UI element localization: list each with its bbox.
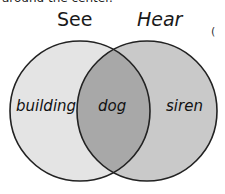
label-left-only: building bbox=[16, 97, 76, 115]
label-intersection: dog bbox=[98, 97, 126, 115]
label-right-only: siren bbox=[166, 97, 203, 115]
